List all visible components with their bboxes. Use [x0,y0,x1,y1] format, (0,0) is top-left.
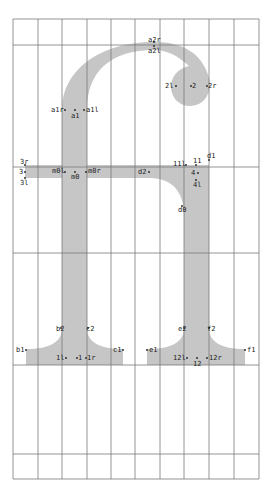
point-label: 1l [56,354,64,362]
control-point: 11l [173,160,187,168]
point-label: e2 [178,325,186,333]
point-marker [25,349,27,351]
point-marker [148,171,150,173]
point-label: a1r [51,106,64,114]
point-label: f1 [247,346,255,354]
point-marker [24,171,26,173]
point-marker [74,109,76,111]
control-point: 12r [206,354,222,362]
point-label: a1 [71,112,79,120]
point-label: 12l [173,354,186,362]
point-label: 12 [193,360,201,368]
control-point: b2 [56,325,64,333]
control-point: c2 [86,325,94,333]
point-label: c1 [113,346,121,354]
control-point: 1r [85,354,95,362]
point-label: b2 [56,325,64,333]
grid-lines [13,19,259,479]
control-point: d0 [178,205,186,214]
control-point: 1 [76,354,82,362]
control-point: m0 [71,171,79,181]
point-marker [146,349,148,351]
control-point: 2r [206,82,216,90]
control-point: 3l [20,177,28,187]
control-point: 11 [193,157,201,166]
point-label: 3 [19,168,23,176]
point-label: 1 [78,354,82,362]
point-label: d1 [207,152,215,160]
point-marker [197,172,199,174]
control-point: 4l [193,179,201,189]
point-marker [122,349,124,351]
control-point: f1 [244,346,255,354]
control-point: a2l [148,45,161,55]
point-label: a2r [148,36,161,44]
point-label: f2 [207,325,215,333]
control-point: m0r [85,167,101,175]
point-marker [175,85,177,87]
point-label: 11 [193,157,201,165]
left-serif [26,328,123,365]
point-label: e1 [149,346,157,354]
point-label: 2l [165,82,173,90]
point-label: a2l [148,47,161,55]
fi-ligature-diagram: a2ra2l2l22ra1ra1a1l3r33lm0lm0m0rd2d111l1… [0,0,273,491]
control-point: e2 [178,325,186,333]
point-marker [64,109,66,111]
point-label: 11l [173,160,186,168]
point-label: d0 [178,206,186,214]
point-marker [65,357,67,359]
point-marker [85,171,87,173]
control-point: a1l [83,106,99,114]
point-label: d2 [138,168,146,176]
point-label: a1l [86,106,99,114]
control-point: a2r [148,36,161,44]
point-label: m0r [88,167,101,175]
point-label: m0 [71,173,79,181]
point-label: 3r [20,158,28,166]
point-label: 4l [193,181,201,189]
point-label: m0l [52,167,65,175]
control-point: 2 [190,82,196,90]
control-point: 3r [20,158,28,166]
point-label: 1r [87,354,95,362]
control-point: 3 [19,168,26,176]
point-label: b1 [16,346,24,354]
point-label: 4 [191,169,195,177]
point-label: 3l [20,179,28,187]
point-label: c2 [86,325,94,333]
point-marker [83,109,85,111]
control-point: d1 [207,152,215,161]
point-marker [196,357,198,359]
point-marker [186,357,188,359]
point-label: 2 [192,82,196,90]
control-points: a2ra2l2l22ra1ra1a1l3r33lm0lm0m0rd2d111l1… [16,36,255,368]
point-marker [244,349,246,351]
point-label: 12r [209,354,222,362]
point-marker [206,357,208,359]
control-point: f2 [207,325,215,333]
point-label: 2r [208,82,216,90]
control-point: m0l [52,167,66,175]
control-point: b1 [16,346,27,354]
